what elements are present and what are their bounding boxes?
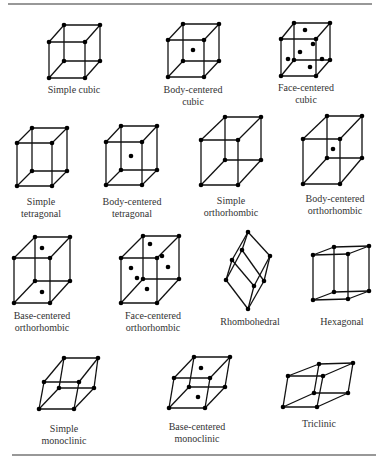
label-base-centered-monoclinic: Base-centered monoclinic <box>169 421 226 445</box>
cell-edge <box>201 160 225 185</box>
lattice-point <box>48 256 53 261</box>
lattice-point <box>367 289 372 294</box>
label-line: Body-centered <box>103 196 162 208</box>
lattice-point <box>301 137 306 142</box>
lattice-point <box>187 385 192 390</box>
cell-edge <box>49 61 64 78</box>
lattice-point <box>40 290 45 295</box>
label-rhombohedral: Rhombohedral <box>220 316 279 328</box>
label-line: Simple <box>42 423 87 435</box>
lattice-point <box>62 59 67 64</box>
lattice-point <box>33 235 38 240</box>
lattice-point <box>298 50 303 55</box>
simple-monoclinic-cell <box>37 356 101 412</box>
cell-edge <box>50 281 70 303</box>
lattice-point <box>268 254 273 259</box>
lattice-point <box>30 169 35 174</box>
lattice-point <box>166 265 171 270</box>
cell-edge <box>248 232 270 256</box>
face-centered-orthorhombic-cell <box>119 234 182 306</box>
lattice-point <box>321 374 326 379</box>
cell-edge <box>248 286 254 309</box>
lattice-point <box>83 40 88 45</box>
lattice-point <box>303 28 308 33</box>
cell-edge <box>313 247 334 255</box>
cell-edge <box>334 291 369 292</box>
lattice-point <box>119 124 124 129</box>
lattice-point <box>160 254 165 259</box>
lattice-point <box>65 126 70 131</box>
lattice-point <box>155 301 160 306</box>
lattice-point <box>50 184 55 189</box>
base-centered-monoclinic-cell <box>167 355 233 411</box>
label-line: orthorhombic <box>125 322 181 334</box>
lattice-point <box>155 168 160 173</box>
lattice-point <box>96 356 101 361</box>
lattice-point <box>47 76 52 81</box>
lattice-point <box>202 75 207 80</box>
lattice-point <box>224 278 229 283</box>
lattice-point <box>166 75 171 80</box>
cell-edge <box>283 393 314 407</box>
label-line: tetragonal <box>103 208 162 220</box>
cell-edge <box>316 60 330 76</box>
cell-edge <box>334 246 369 247</box>
lattice-point <box>311 298 316 303</box>
label-line: orthorhombic <box>204 207 258 219</box>
lattice-point <box>155 124 160 129</box>
cell-edge <box>121 279 143 303</box>
lattice-point <box>192 355 197 360</box>
cell-edge <box>348 291 369 299</box>
lattice-point <box>155 256 160 261</box>
label-simple-cubic: Simple cubic <box>48 84 101 96</box>
label-line: orthorhombic <box>14 322 71 334</box>
lattice-point <box>317 362 322 367</box>
lattice-point <box>203 406 208 411</box>
lattice-point <box>217 22 222 27</box>
lattice-point <box>57 386 62 391</box>
lattice-point <box>40 246 45 251</box>
lattice-point <box>119 168 124 173</box>
label-face-centered-orthorhombic: Face-centered orthorhombic <box>125 310 181 334</box>
lattice-point <box>346 297 351 302</box>
lattice-point <box>72 407 77 412</box>
lattice-point <box>367 244 372 249</box>
cell-edge <box>317 393 348 407</box>
lattice-point <box>104 183 109 188</box>
lattice-point <box>148 242 153 247</box>
face-centered-cubic-cell <box>279 21 333 79</box>
lattice-point <box>223 385 228 390</box>
lattice-point <box>230 258 235 263</box>
lattice-point <box>338 137 343 142</box>
lattice-point <box>196 395 201 400</box>
lattice-point <box>338 182 343 187</box>
label-body-centered-cubic: Body-centered cubic <box>164 84 223 108</box>
cell-edge <box>232 260 254 286</box>
lattice-point <box>167 406 172 411</box>
lattice-point <box>199 366 204 371</box>
lattice-point <box>12 301 17 306</box>
lattice-point <box>301 182 306 187</box>
label-line: cubic <box>164 96 223 108</box>
cell-edge <box>106 126 121 142</box>
lattice-point <box>119 301 124 306</box>
triclinic-cell <box>281 361 356 410</box>
lattice-point <box>346 252 351 257</box>
simple-orthorhombic-cell <box>199 115 264 188</box>
label-line: Triclinic <box>302 418 336 430</box>
cell-edge <box>340 158 362 184</box>
cell-edge <box>303 116 327 139</box>
cell-edge <box>226 280 248 309</box>
body-centered-cubic-cell <box>166 22 222 80</box>
cell-edge <box>17 128 32 143</box>
cell-edge <box>314 364 319 393</box>
lattice-point <box>140 140 145 145</box>
lattice-point <box>308 65 313 70</box>
lattice-point <box>246 307 251 312</box>
label-simple-monoclinic: Simple monoclinic <box>42 423 87 447</box>
label-line: Base-centered <box>14 310 71 322</box>
lattice-point <box>246 230 251 235</box>
cell-edge <box>14 281 35 303</box>
lattice-point <box>42 380 47 385</box>
cell-edge <box>201 117 225 140</box>
